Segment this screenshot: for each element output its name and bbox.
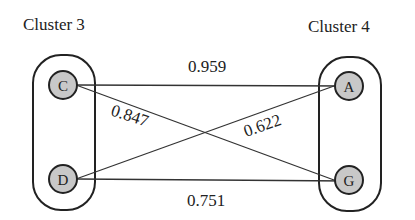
node-g: G <box>335 166 363 194</box>
edge-c-a <box>76 85 348 86</box>
edge-d-g <box>76 179 348 181</box>
weight-d-a: 0.622 <box>241 110 283 140</box>
weight-c-g: 0.847 <box>109 101 152 131</box>
cluster-3-title: Cluster 3 <box>23 15 85 34</box>
node-d: D <box>49 165 77 193</box>
cluster-4-title: Cluster 4 <box>308 17 370 36</box>
node-c: C <box>49 71 77 99</box>
node-g-label: G <box>344 173 355 189</box>
node-c-label: C <box>58 78 68 94</box>
cluster-diagram: C D A G Cluster 3 Cluster 4 0.959 0.847 … <box>0 0 415 220</box>
weight-c-a: 0.959 <box>188 57 226 76</box>
node-d-label: D <box>58 172 69 188</box>
weight-d-g: 0.751 <box>187 191 225 210</box>
node-a: A <box>335 72 363 100</box>
node-a-label: A <box>344 79 355 95</box>
